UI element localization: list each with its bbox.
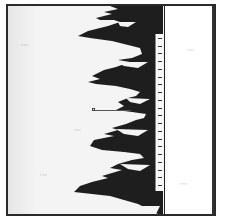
scale-tick — [158, 185, 162, 186]
scale-tick — [158, 146, 162, 147]
scale-tick — [158, 38, 162, 39]
scale-tick — [158, 84, 162, 85]
scale-tick — [158, 177, 162, 178]
scale-tick — [158, 77, 162, 78]
label-left-bottom: ····· — [40, 173, 47, 177]
label-right-top: ····· — [187, 48, 194, 52]
scale-tick — [158, 108, 162, 109]
scale-tick — [158, 100, 162, 101]
pointer-marker-icon — [92, 108, 95, 111]
scale-tick — [158, 162, 162, 163]
scale-tick — [158, 131, 162, 132]
scale-tick — [158, 46, 162, 47]
right-panel — [164, 6, 214, 214]
label-left-middle: ····· — [74, 128, 81, 132]
label-left-top: ····· — [21, 43, 28, 47]
scale-tick — [158, 61, 162, 62]
scale-tick — [158, 53, 162, 54]
scale-tick — [158, 139, 162, 140]
scale-tick — [158, 123, 162, 124]
scale-tick — [158, 69, 162, 70]
scale-tick — [158, 115, 162, 116]
pointer-line — [95, 110, 131, 111]
scale-tick — [158, 92, 162, 93]
graduated-scale — [155, 34, 163, 191]
scale-tick — [158, 154, 162, 155]
scale-tick — [158, 170, 162, 171]
label-right-bottom: ····· — [180, 182, 187, 186]
